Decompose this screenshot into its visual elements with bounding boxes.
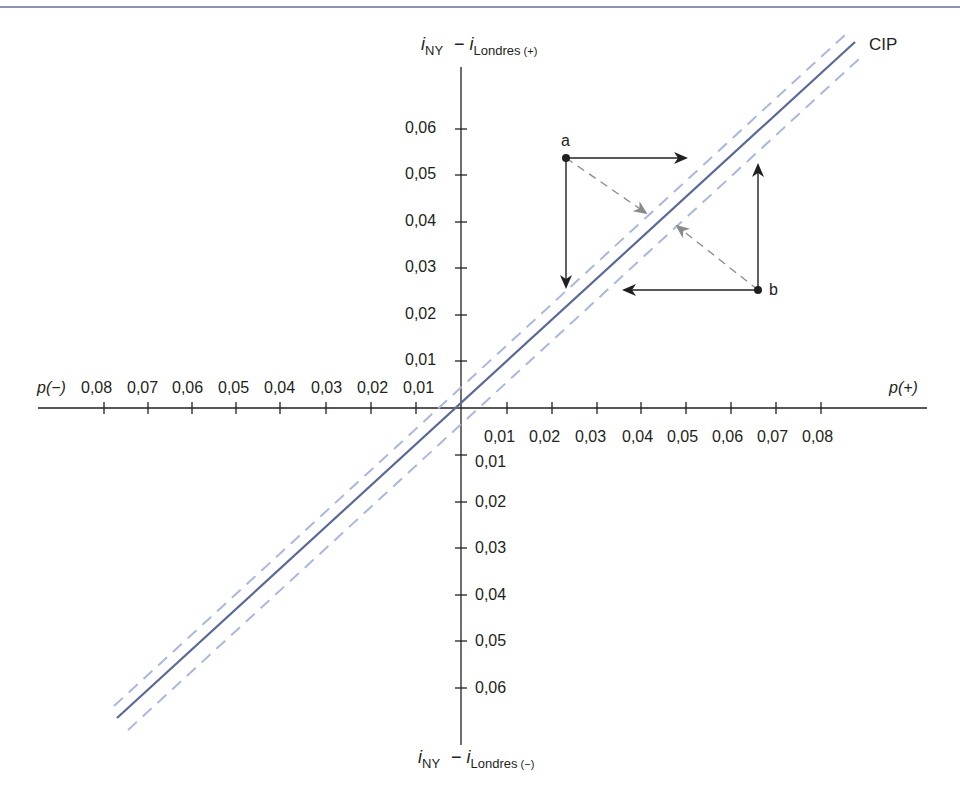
- x-tick-label: 0,03: [311, 380, 342, 396]
- y-tick-label: 0,04: [405, 213, 436, 229]
- x-tick-label: 0,08: [81, 380, 112, 396]
- y-tick-label: 0,02: [405, 306, 436, 322]
- y-tick-label: 0,01: [475, 454, 506, 470]
- x-tick-label: 0,07: [757, 429, 788, 445]
- point-a-arrows: [566, 158, 686, 287]
- y-tick-label: 0,01: [405, 352, 436, 368]
- y-tick-label: 0,06: [405, 120, 436, 136]
- point-a-label: a: [561, 133, 570, 149]
- x-tick-label: 0,05: [667, 429, 698, 445]
- y-axis-top-label: iNY − iLondres(+): [421, 35, 537, 57]
- x-tick-label: 0,08: [802, 429, 833, 445]
- x-axis-right-label: p(+): [889, 380, 918, 396]
- point-b-arrows: [624, 165, 758, 290]
- x-tick-label: 0,04: [622, 429, 653, 445]
- x-tick-label: 0,01: [484, 429, 515, 445]
- point-b-label: b: [769, 282, 778, 298]
- x-tick-label: 0,02: [357, 380, 388, 396]
- cip-upper-band: [114, 34, 846, 706]
- x-axis-left-label: p(−): [37, 380, 66, 396]
- x-tick-label: 0,07: [127, 380, 158, 396]
- point-a: [562, 154, 570, 162]
- y-tick-label: 0,05: [405, 166, 436, 182]
- x-tick-label: 0,04: [264, 380, 295, 396]
- cip-diagram: [0, 0, 960, 794]
- x-tick-label: 0,03: [575, 429, 606, 445]
- x-tick-label: 0,05: [218, 380, 249, 396]
- y-axis-bottom-label: iNY − iLondres(−): [418, 748, 534, 770]
- point-b: [754, 286, 762, 294]
- y-tick-label: 0,03: [475, 540, 506, 556]
- y-tick-label: 0,05: [475, 633, 506, 649]
- cip-label: CIP: [869, 36, 897, 53]
- y-tick-label: 0,06: [475, 680, 506, 696]
- y-tick-label: 0,03: [405, 259, 436, 275]
- x-tick-label: 0,06: [712, 429, 743, 445]
- y-tick-label: 0,02: [475, 494, 506, 510]
- x-tick-label: 0,02: [529, 429, 560, 445]
- x-tick-label: 0,01: [403, 380, 434, 396]
- x-tick-label: 0,06: [172, 380, 203, 396]
- y-tick-label: 0,04: [475, 587, 506, 603]
